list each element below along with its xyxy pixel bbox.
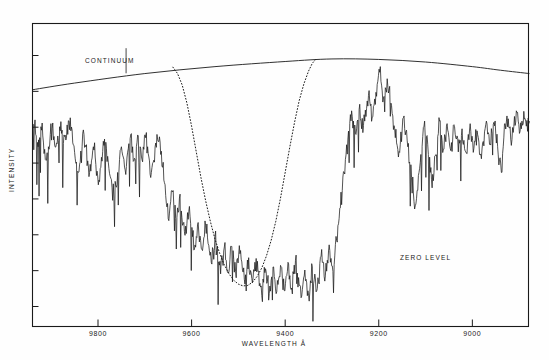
y-axis-title: INTENSITY (8, 148, 15, 192)
x-tick-label: 9000 (463, 330, 481, 337)
spectrum-figure: WAVELENGTH Å INTENSITY CONTINUUM ZERO LE… (0, 0, 549, 360)
continuum-annotation: CONTINUUM (85, 57, 135, 64)
plot-canvas (0, 0, 549, 360)
axis-ticks (33, 56, 473, 327)
broad-absorption-profile (173, 59, 316, 285)
x-tick-label: 9400 (276, 330, 294, 337)
x-tick-label: 9200 (370, 330, 388, 337)
x-axis-title: WAVELENGTH Å (242, 340, 307, 347)
plot-frame (33, 24, 529, 327)
x-tick-label: 9600 (183, 330, 201, 337)
zero-level-annotation: ZERO LEVEL (400, 254, 451, 261)
x-tick-label: 9800 (89, 330, 107, 337)
